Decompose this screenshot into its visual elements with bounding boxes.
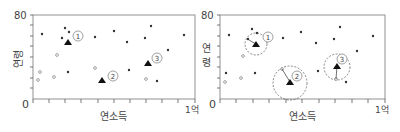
right-x-ticks xyxy=(220,99,385,103)
right-plot-frame xyxy=(220,15,385,99)
right-y-max-label: 80 xyxy=(201,10,214,21)
svg-text:2: 2 xyxy=(295,73,299,81)
left-y-max-label: 80 xyxy=(14,10,27,21)
left-centroid-labels: 1 2 3 xyxy=(73,31,162,81)
svg-text:1: 1 xyxy=(76,33,80,41)
right-x-max-label: 1억 xyxy=(375,104,389,115)
right-y-axis-label-top: 연 xyxy=(202,43,211,54)
triangle-icon xyxy=(98,77,106,83)
triangle-icon xyxy=(286,79,294,85)
right-y-min-label: 0 xyxy=(209,98,216,111)
right-chart: 80 0 1억 연소득 연 령 xyxy=(201,10,389,122)
triangle-icon xyxy=(64,39,72,45)
left-x-ticks xyxy=(33,99,195,103)
svg-text:1: 1 xyxy=(266,34,270,42)
right-y-axis-label-bottom: 령 xyxy=(202,57,211,68)
left-x-axis-label: 연소득 xyxy=(100,111,127,122)
svg-text:3: 3 xyxy=(340,56,344,64)
left-plot-frame xyxy=(33,15,195,99)
right-y-ticks xyxy=(217,15,220,88)
triangle-icon xyxy=(252,41,260,47)
triangle-icon xyxy=(144,60,152,66)
svg-text:3: 3 xyxy=(155,55,159,63)
chart-canvas: 80 0 1억 연소득 연령 1 2 3 xyxy=(0,0,400,132)
right-cluster-circles xyxy=(245,33,350,100)
left-y-min-label: 0 xyxy=(22,98,29,111)
svg-text:2: 2 xyxy=(111,73,115,81)
left-y-ticks xyxy=(30,15,33,88)
left-y-axis-label: 연령 xyxy=(13,50,24,68)
right-x-axis-label: 연소득 xyxy=(289,111,316,122)
left-x-max-label: 1억 xyxy=(185,104,199,115)
left-chart: 80 0 1억 연소득 연령 1 2 3 xyxy=(13,10,199,122)
